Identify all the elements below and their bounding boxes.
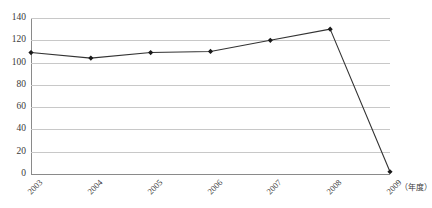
- data-point-marker: [328, 27, 333, 32]
- data-point-marker: [148, 50, 153, 55]
- data-point-marker: [28, 50, 33, 55]
- x-axis-unit-label: （年度）: [400, 184, 432, 192]
- data-point-marker: [268, 38, 273, 43]
- data-point-marker: [88, 56, 93, 61]
- data-point-marker: [387, 169, 392, 174]
- data-point-marker: [208, 49, 213, 54]
